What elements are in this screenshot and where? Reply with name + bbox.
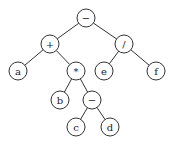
tree-node: e: [95, 62, 113, 80]
tree-edge: [93, 23, 116, 39]
tree-edge: [57, 23, 78, 38]
node-label: c: [73, 122, 79, 133]
tree-node: f: [147, 62, 165, 80]
tree-node: a: [9, 62, 27, 80]
tree-node: −: [83, 91, 101, 109]
node-label: +: [46, 39, 54, 50]
node-label: d: [107, 122, 114, 133]
expression-tree-diagram: −+/a*efb−cd: [0, 0, 173, 153]
node-label: −: [88, 95, 96, 106]
node-label: −: [82, 13, 90, 24]
tree-node: d: [101, 118, 119, 136]
tree-edge: [97, 107, 105, 119]
node-label: b: [57, 95, 63, 106]
tree-node: /: [115, 35, 133, 53]
tree-edge: [25, 50, 43, 65]
tree-node: −: [77, 9, 95, 27]
tree-edge: [56, 50, 70, 64]
node-label: a: [15, 66, 21, 77]
tree-edge: [81, 108, 88, 120]
tree-edge: [131, 50, 149, 65]
tree-edge: [109, 51, 118, 64]
node-label: e: [101, 66, 107, 77]
tree-edge: [80, 79, 87, 92]
tree-nodes: −+/a*efb−cd: [9, 9, 165, 136]
tree-edge: [64, 79, 71, 92]
tree-node: *: [67, 62, 85, 80]
node-label: *: [74, 66, 79, 77]
tree-node: b: [51, 91, 69, 109]
tree-node: +: [41, 35, 59, 53]
tree-node: c: [67, 118, 85, 136]
